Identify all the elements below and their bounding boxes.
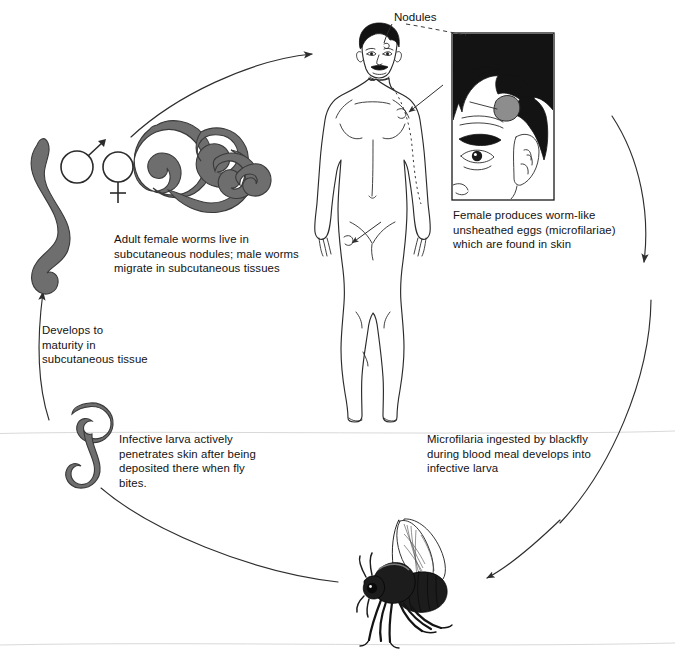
face-closeup-inset <box>452 33 554 200</box>
mars-symbol <box>61 139 106 183</box>
arrow-to-shoulder-nodule <box>409 85 443 112</box>
lifecycle-diagram: Nodules Adult female worms live in subcu… <box>0 0 675 661</box>
caption-adult-worms: Adult female worms live in subcutaneous … <box>114 232 324 276</box>
infective-larva-figure <box>66 403 113 488</box>
venus-symbol <box>103 152 133 203</box>
arc-fly-to-larva <box>101 488 338 582</box>
sex-symbols-group <box>61 139 133 203</box>
arc-right-lower <box>560 300 651 523</box>
arrow-into-fly <box>487 520 560 578</box>
nodules-label: Nodules <box>394 10 437 23</box>
male-worm-figure <box>31 139 70 294</box>
female-worm-figure <box>134 121 271 213</box>
caption-microfilaria-ingested: Microfilaria ingested by blackfly during… <box>427 432 632 476</box>
caption-develops-to-maturity: Develops to maturity in subcutaneous tis… <box>42 323 182 367</box>
caption-female-produces-eggs: Female produces worm-like unsheathed egg… <box>453 208 653 252</box>
blackfly-figure <box>357 519 452 648</box>
human-figure <box>315 23 443 422</box>
caption-infective-larva: Infective larva actively penetrates skin… <box>119 432 299 490</box>
